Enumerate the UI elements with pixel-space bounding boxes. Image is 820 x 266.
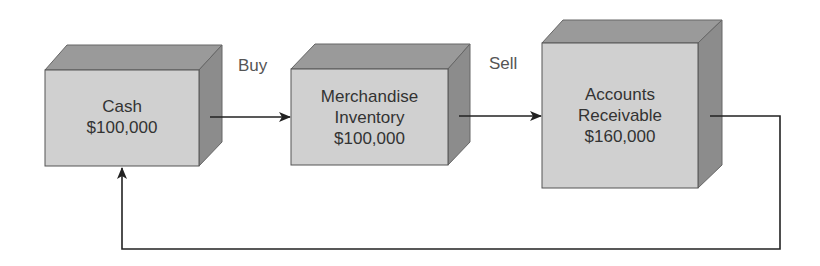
cash-amount: $100,000 [45, 117, 199, 138]
inventory-label: Merchandise Inventory $100,000 [291, 86, 448, 149]
cash-title: Cash [45, 96, 199, 117]
inventory-amount: $100,000 [291, 128, 448, 149]
sell-label: Sell [489, 54, 517, 74]
buy-label: Buy [238, 56, 267, 76]
cash-label: Cash $100,000 [45, 96, 199, 138]
receivables-label: Accounts Receivable $160,000 [542, 84, 698, 147]
inventory-title-1: Merchandise [291, 86, 448, 107]
receivables-title-1: Accounts [542, 84, 698, 105]
receivables-title-2: Receivable [542, 105, 698, 126]
inventory-title-2: Inventory [291, 107, 448, 128]
receivables-amount: $160,000 [542, 126, 698, 147]
